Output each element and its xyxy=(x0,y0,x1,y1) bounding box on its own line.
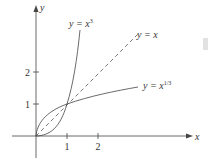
x-axis-arrow-icon xyxy=(186,134,193,139)
x-tick-label-1: 1 xyxy=(65,141,70,152)
x-tick-label-2: 2 xyxy=(96,141,101,152)
side-gray-block xyxy=(203,38,208,50)
y-axis-label: y xyxy=(39,2,45,13)
identity-annotation: y = x xyxy=(136,29,158,40)
y-tick-label-2: 2 xyxy=(25,67,30,78)
cube-root-annotation: y = x1/3 xyxy=(142,80,171,91)
y-axis-arrow-icon xyxy=(34,5,39,12)
cube-root-curve xyxy=(36,87,138,136)
cubic-annotation: y = x3 xyxy=(68,18,93,29)
y-tick-label-1: 1 xyxy=(25,99,30,110)
x-axis-label: x xyxy=(194,131,200,142)
function-plot: 1 2 1 2 x y y = x3 y = x y = x1/3 xyxy=(0,0,208,161)
identity-line xyxy=(36,34,138,136)
